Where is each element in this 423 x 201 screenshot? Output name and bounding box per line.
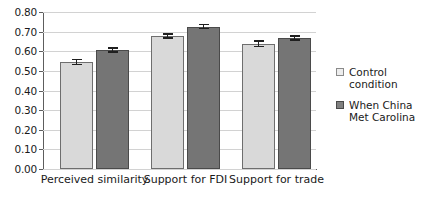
error-bar-cap-bottom [163,37,173,39]
tick-mark [39,169,43,170]
y-axis-tick-label: 0.60 [14,45,37,57]
y-axis-tick-label: 0.40 [14,85,37,97]
bar-chart: 0.000.100.200.300.400.500.600.700.80 Per… [0,0,423,201]
error-bar-cap-bottom [290,39,300,41]
y-axis-tick-label: 0.50 [14,65,37,77]
tick-mark [39,71,43,72]
bar [242,44,275,169]
error-bar [254,40,264,47]
tick-mark [39,12,43,13]
control-swatch-icon [336,68,344,76]
gridline [43,12,316,13]
error-bar-cap-top [163,33,173,35]
y-axis-tick-label: 0.70 [14,26,37,38]
gridline [43,169,316,170]
error-bar-cap-bottom [254,46,264,48]
error-bar-cap-bottom [108,51,118,53]
error-bar [72,59,82,66]
legend-item-control: Control condition [336,66,422,90]
error-bar-cap-top [254,40,264,42]
legend-label-treatment: When China Met Carolina [349,99,415,123]
bar [96,50,129,169]
error-bar-cap-top [108,47,118,49]
tick-mark [39,91,43,92]
x-axis-label: Support for trade [197,173,357,186]
tick-mark [39,110,43,111]
legend-label-control: Control condition [349,66,398,90]
y-axis-tick-label: 0.10 [14,143,37,155]
error-bar-cap-bottom [199,28,209,30]
plot-area: 0.000.100.200.300.400.500.600.700.80 [43,12,316,169]
bar [187,27,220,169]
bar [278,38,311,169]
y-axis-tick-label: 0.80 [14,6,37,18]
tick-mark [39,130,43,131]
treatment-swatch-icon [336,101,344,109]
error-bar-cap-bottom [72,64,82,66]
error-bar [108,47,118,52]
error-bar-cap-top [290,35,300,37]
bar [60,62,93,169]
error-bar-cap-top [72,59,82,61]
y-axis-tick-label: 0.20 [14,124,37,136]
error-bar [199,24,209,29]
bar [151,36,184,169]
legend-item-treatment: When China Met Carolina [336,99,422,123]
gridline [43,32,316,33]
tick-mark [39,32,43,33]
error-bar [290,35,300,40]
error-bar [163,33,173,38]
error-bar-cap-top [199,24,209,26]
tick-mark [39,149,43,150]
tick-mark [39,51,43,52]
legend: Control condition When China Met Carolin… [336,66,422,132]
y-axis-tick-label: 0.30 [14,104,37,116]
